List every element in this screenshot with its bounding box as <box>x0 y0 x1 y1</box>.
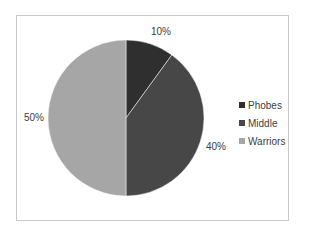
legend-label-warriors: Warriors <box>248 136 285 147</box>
legend-swatch-middle <box>239 120 245 126</box>
legend-label-phobes: Phobes <box>248 100 282 111</box>
legend: Phobes Middle Warriors <box>239 96 285 150</box>
legend-item-warriors: Warriors <box>239 132 285 150</box>
legend-item-middle: Middle <box>239 114 285 132</box>
legend-swatch-phobes <box>239 102 245 108</box>
legend-swatch-warriors <box>239 138 245 144</box>
data-label-phobes: 10% <box>151 26 171 37</box>
data-label-middle: 40% <box>206 141 226 152</box>
data-label-warriors: 50% <box>24 112 44 123</box>
legend-label-middle: Middle <box>248 118 277 129</box>
pie-slice-warriors <box>48 40 126 196</box>
legend-item-phobes: Phobes <box>239 96 285 114</box>
